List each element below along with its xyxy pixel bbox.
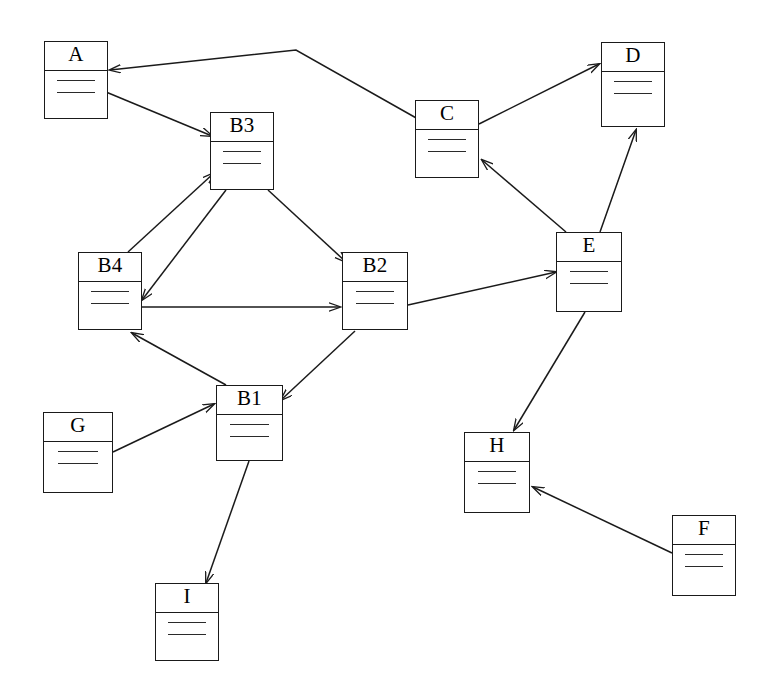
attribute-placeholder-line (614, 81, 651, 82)
edge-b2-to-b1 (281, 331, 355, 400)
edge-c-to-d (479, 64, 599, 124)
attribute-placeholder-line (685, 566, 722, 567)
class-node-g[interactable]: G (43, 412, 113, 493)
attribute-placeholder-line (57, 80, 94, 81)
attribute-placeholder-line (570, 283, 608, 284)
attribute-placeholder-line (168, 634, 205, 635)
class-node-title: B4 (79, 253, 141, 282)
attribute-placeholder-line (57, 92, 94, 93)
edge-e-to-c (482, 160, 566, 232)
edge-a-to-b3 (106, 92, 212, 136)
class-node-title: A (45, 42, 107, 71)
class-node-b3[interactable]: B3 (210, 112, 274, 190)
class-node-attributes (416, 130, 478, 177)
attribute-placeholder-line (230, 436, 269, 437)
attribute-placeholder-line (168, 622, 205, 623)
attribute-placeholder-line (356, 303, 394, 304)
attribute-placeholder-line (223, 151, 260, 152)
class-node-attributes (465, 462, 529, 512)
edge-g-to-b1 (113, 404, 214, 452)
class-node-title: D (602, 43, 664, 72)
class-node-attributes (217, 415, 282, 460)
attribute-placeholder-line (356, 291, 394, 292)
class-node-title: C (416, 101, 478, 130)
attribute-placeholder-line (685, 554, 722, 555)
class-node-i[interactable]: I (155, 583, 219, 661)
edge-b1-to-b4 (132, 333, 226, 385)
attribute-placeholder-line (428, 139, 465, 140)
class-node-a[interactable]: A (44, 41, 108, 119)
edge-b4-to-b3 (128, 173, 214, 252)
attribute-placeholder-line (58, 451, 99, 452)
class-node-title: B1 (217, 386, 282, 415)
attribute-placeholder-line (570, 271, 608, 272)
class-node-title: G (44, 413, 112, 442)
class-node-title: I (156, 584, 218, 613)
class-node-b2[interactable]: B2 (342, 252, 408, 330)
class-node-e[interactable]: E (556, 232, 622, 312)
edge-c-to-a (110, 50, 418, 119)
class-node-f[interactable]: F (672, 515, 736, 596)
attribute-placeholder-line (58, 463, 99, 464)
class-node-attributes (211, 142, 273, 189)
class-node-attributes (602, 72, 664, 126)
edge-e-to-d (600, 130, 636, 232)
edge-b3-to-b2 (268, 190, 346, 262)
class-node-attributes (156, 613, 218, 660)
class-diagram-canvas: AB3CDB4B2EB1GHFI (0, 0, 774, 699)
class-node-attributes (79, 282, 141, 329)
attribute-placeholder-line (91, 291, 128, 292)
edge-b3-to-b4 (142, 190, 226, 300)
attribute-placeholder-line (614, 93, 651, 94)
class-node-d[interactable]: D (601, 42, 665, 127)
attribute-placeholder-line (478, 471, 516, 472)
class-node-h[interactable]: H (464, 432, 530, 513)
class-node-title: E (557, 233, 621, 262)
class-node-b1[interactable]: B1 (216, 385, 283, 461)
edge-b1-to-i (206, 461, 249, 583)
edge-f-to-h (533, 487, 672, 553)
class-node-title: F (673, 516, 735, 545)
edge-b2-to-e (408, 272, 556, 305)
attribute-placeholder-line (428, 151, 465, 152)
attribute-placeholder-line (478, 483, 516, 484)
class-node-c[interactable]: C (415, 100, 479, 178)
class-node-attributes (44, 442, 112, 492)
class-node-attributes (45, 71, 107, 118)
class-node-b4[interactable]: B4 (78, 252, 142, 330)
attribute-placeholder-line (230, 424, 269, 425)
attribute-placeholder-line (223, 163, 260, 164)
class-node-attributes (557, 262, 621, 311)
class-node-title: H (465, 433, 529, 462)
attribute-placeholder-line (91, 303, 128, 304)
class-node-title: B3 (211, 113, 273, 142)
class-node-title: B2 (343, 253, 407, 282)
class-node-attributes (673, 545, 735, 595)
edge-e-to-h (514, 312, 585, 430)
class-node-attributes (343, 282, 407, 329)
